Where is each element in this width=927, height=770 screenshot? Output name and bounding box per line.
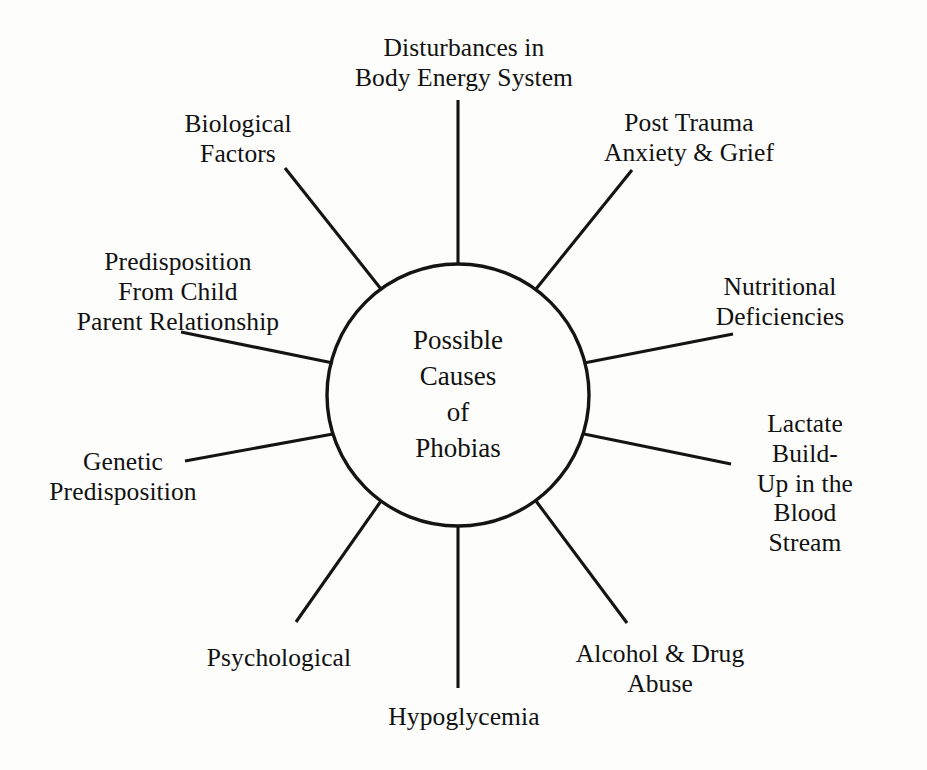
spoke-nutritional-deficiencies [584,334,733,363]
node-label-alcohol-drug-abuse: Alcohol & Drug Abuse [576,639,745,699]
spoke-genetic-predisposition [185,434,333,461]
node-label-genetic-predisposition: Genetic Predisposition [49,447,196,507]
spoke-post-trauma-anxiety-grief [536,170,632,289]
node-label-post-trauma-anxiety-grief: Post Trauma Anxiety & Grief [604,108,774,168]
spoke-psychological [296,501,381,622]
node-label-disturbances-body-energy-system: Disturbances in Body Energy System [355,33,573,93]
node-label-psychological: Psychological [207,643,351,673]
node-label-nutritional-deficiencies: Nutritional Deficiencies [716,272,845,332]
node-label-predisposition-from-child-parent-relationship: Predisposition From Child Parent Relatio… [77,247,279,336]
node-label-lactate-build-up-blood-stream: Lactate Build- Up in the Blood Stream [744,409,866,558]
spoke-alcohol-drug-abuse [536,501,627,623]
phobia-causes-diagram: Possible Causes of Phobias Disturbances … [0,0,927,770]
node-label-hypoglycemia: Hypoglycemia [388,702,539,732]
hub-label: Possible Causes of Phobias [338,323,578,467]
node-label-biological-factors: Biological Factors [184,109,291,169]
spoke-lactate-build-up-blood-stream [584,434,731,464]
spoke-biological-factors [285,168,381,289]
